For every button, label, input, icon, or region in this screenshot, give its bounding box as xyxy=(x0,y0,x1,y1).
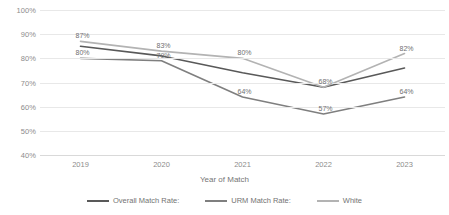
legend-item[interactable]: URM Match Rate: xyxy=(205,196,291,205)
y-axis-tick-label: 80% xyxy=(21,54,36,63)
y-axis-tick-label: 60% xyxy=(21,102,36,111)
gridline xyxy=(40,155,445,156)
line-chart: 100%90%80%70%60%50%40% 20192020202120222… xyxy=(0,0,449,215)
series-line xyxy=(81,58,405,114)
data-point-label: 87% xyxy=(75,32,89,39)
gridline xyxy=(40,131,445,132)
y-axis-tick-label: 40% xyxy=(21,151,36,160)
legend-label: White xyxy=(343,196,362,205)
gridline xyxy=(40,83,445,84)
legend-label: URM Match Rate: xyxy=(231,196,291,205)
y-axis-tick-label: 50% xyxy=(21,126,36,135)
gridline xyxy=(40,34,445,35)
legend-item[interactable]: White xyxy=(317,196,362,205)
x-axis-tick-label: 2020 xyxy=(153,160,170,169)
data-point-label: 57% xyxy=(318,104,332,111)
data-point-label: 83% xyxy=(156,42,170,49)
gridline xyxy=(40,107,445,108)
chart-legend: Overall Match Rate:URM Match Rate:White xyxy=(0,196,449,205)
gridline xyxy=(40,10,445,11)
y-axis-tick-label: 70% xyxy=(21,78,36,87)
x-axis-tick-label: 2023 xyxy=(396,160,413,169)
x-axis-tick-label: 2022 xyxy=(315,160,332,169)
plot-area xyxy=(40,10,445,155)
data-point-label: 82% xyxy=(399,44,413,51)
legend-label: Overall Match Rate: xyxy=(113,196,179,205)
data-point-label: 68% xyxy=(318,78,332,85)
legend-line-swatch xyxy=(205,200,227,202)
x-axis-tick-label: 2019 xyxy=(72,160,89,169)
x-axis-tick-label: 2021 xyxy=(234,160,251,169)
gridline xyxy=(40,58,445,59)
legend-line-swatch xyxy=(317,200,339,202)
legend-line-swatch xyxy=(87,200,109,202)
data-point-label: 64% xyxy=(237,88,251,95)
data-point-label: 80% xyxy=(75,49,89,56)
y-axis-tick-label: 100% xyxy=(16,6,36,15)
y-axis-tick-label: 90% xyxy=(21,30,36,39)
data-point-label: 80% xyxy=(237,49,251,56)
y-axis: 100%90%80%70%60%50%40% xyxy=(0,0,36,160)
data-point-label: 79% xyxy=(156,51,170,58)
x-axis-title: Year of Match xyxy=(0,175,449,184)
data-point-label: 64% xyxy=(399,88,413,95)
legend-item[interactable]: Overall Match Rate: xyxy=(87,196,179,205)
